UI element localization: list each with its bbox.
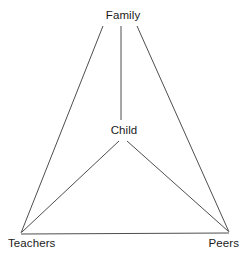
edge-teachers-peers [21, 233, 229, 234]
edge-child-teachers [22, 141, 119, 232]
node-label-peers: Peers [208, 237, 239, 250]
edge-child-peers [127, 141, 228, 231]
node-label-child: Child [1, 124, 248, 137]
diagram-canvas: Family Child Teachers Peers [0, 0, 247, 263]
node-label-teachers: Teachers [8, 237, 55, 250]
node-label-family: Family [0, 9, 247, 22]
